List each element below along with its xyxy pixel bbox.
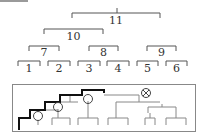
circle-marker-1: [34, 112, 43, 121]
cross-circle-icon: [142, 89, 151, 98]
inset-path-diagram: [0, 0, 204, 136]
